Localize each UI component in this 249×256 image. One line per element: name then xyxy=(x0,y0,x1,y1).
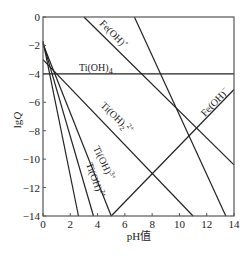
series-line-1 xyxy=(43,60,193,216)
series-line-6 xyxy=(134,17,225,216)
y-tick-label: −10 xyxy=(23,153,41,165)
y-tick-label: −6 xyxy=(28,96,40,108)
y-axis-title: lgQ xyxy=(11,112,23,129)
y-tick-label: −2 xyxy=(28,39,40,51)
x-axis-title: pH值 xyxy=(127,230,151,242)
x-tick-label: 8 xyxy=(149,218,155,230)
y-tick-label: −4 xyxy=(28,68,40,80)
series-labels: Fe(OH)+ Ti(OH)4 Ti(OH)22+ Ti(OH)3+ Ti(OH… xyxy=(79,17,232,200)
y-tick-label: −12 xyxy=(23,182,40,194)
x-tick-label: 0 xyxy=(40,218,46,230)
x-tick-label: 2 xyxy=(68,218,74,230)
x-tick-label: 12 xyxy=(201,218,212,230)
series-line-5 xyxy=(84,17,234,165)
y-tick-label: −14 xyxy=(23,210,41,222)
label-ti-oh-2-2plus: Ti(OH)22+ xyxy=(97,99,137,138)
x-tick-label: 4 xyxy=(95,218,101,230)
y-tick-label: −8 xyxy=(28,125,40,137)
y-tick-label: 0 xyxy=(35,11,41,23)
x-tick-label: 14 xyxy=(229,218,241,230)
axis-ticks: 024681012140−2−4−6−8−10−12−14 xyxy=(23,11,240,230)
series-line-4 xyxy=(43,41,78,216)
chart-svg: 024681012140−2−4−6−8−10−12−14 Fe(OH)+ Ti… xyxy=(0,0,249,256)
x-tick-label: 6 xyxy=(122,218,128,230)
label-fe-oh-minus: Fe(OH)− xyxy=(198,85,232,119)
x-tick-label: 10 xyxy=(174,218,186,230)
